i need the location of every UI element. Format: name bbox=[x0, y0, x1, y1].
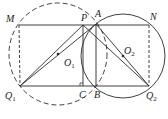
label-q1: Q1 bbox=[5, 90, 16, 103]
label-b: B bbox=[94, 89, 100, 100]
label-c: C bbox=[79, 89, 86, 100]
segment-pq2 bbox=[83, 25, 149, 86]
label-n: N bbox=[149, 11, 158, 22]
center-o1-dot bbox=[57, 53, 60, 56]
segment-q1p bbox=[20, 25, 83, 86]
label-q2: Q2 bbox=[146, 90, 157, 103]
label-p: P bbox=[80, 12, 87, 23]
segment-mq1 bbox=[19, 25, 20, 86]
label-o1: O1 bbox=[64, 57, 75, 70]
geometry-diagram: M N P A Q1 Q2 C B O1 O2 bbox=[0, 0, 168, 119]
label-o2: O2 bbox=[124, 45, 135, 58]
label-m: M bbox=[5, 13, 15, 24]
label-a: A bbox=[94, 8, 102, 19]
